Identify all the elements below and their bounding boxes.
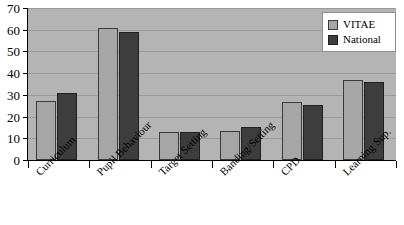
y-tick-label: 30 <box>0 89 20 102</box>
x-tick-mark <box>151 161 152 168</box>
bar-chart: 010203040506070 CurriculumPupil Behaviou… <box>0 0 404 225</box>
legend-item-vitae[interactable]: VITAE <box>328 17 390 32</box>
bar[interactable] <box>98 28 118 160</box>
legend-label: National <box>343 34 381 45</box>
bar[interactable] <box>303 105 323 160</box>
x-tick-mark <box>335 161 336 168</box>
legend-label: VITAE <box>343 19 375 30</box>
y-tick-label: 70 <box>0 2 20 15</box>
x-tick-mark <box>28 161 29 168</box>
y-tick-label: 50 <box>0 45 20 58</box>
y-tick-label: 20 <box>0 111 20 124</box>
x-tick-mark <box>396 161 397 168</box>
y-tick-label: 40 <box>0 67 20 80</box>
x-tick-mark <box>89 161 90 168</box>
legend-item-national[interactable]: National <box>328 32 390 47</box>
legend-swatch-icon <box>328 20 338 30</box>
legend-swatch-icon <box>328 35 338 45</box>
x-tick-mark <box>212 161 213 168</box>
bar[interactable] <box>282 102 302 160</box>
y-tick-label: 10 <box>0 132 20 145</box>
legend: VITAE National <box>322 12 396 52</box>
y-tick-label: 60 <box>0 24 20 37</box>
x-tick-mark <box>273 161 274 168</box>
bar-group <box>282 8 323 160</box>
y-tick-label: 0 <box>0 154 20 167</box>
